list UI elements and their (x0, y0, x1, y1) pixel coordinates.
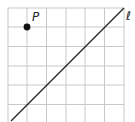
point-p-label: P (32, 11, 39, 23)
grid-diagram (0, 0, 135, 122)
point-p (24, 24, 31, 31)
line-l-label: ℓ (126, 10, 131, 22)
